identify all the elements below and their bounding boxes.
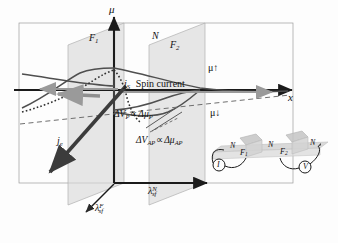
label-delta-v-ap: ΔVAP∝ΔμAP (136, 136, 183, 146)
axis-label-x: x (288, 92, 293, 103)
region-label-f2: F2 (170, 40, 180, 51)
inset-voltmeter-label: V (303, 163, 308, 171)
region-label-f1: F1 (89, 33, 99, 44)
label-mu-up: μ↑ (208, 63, 218, 73)
label-delta-v-p: ΔVP∝ΔμP (114, 110, 153, 120)
inset-current-source-label: I (217, 161, 220, 169)
inset-label-n-left: N (230, 142, 235, 150)
inset-label-f1: F1 (240, 149, 248, 158)
inset-label-n-right: N (310, 139, 315, 147)
axis-label-mu: μ (109, 4, 115, 15)
label-mu-down: μ↓ (210, 108, 220, 118)
label-lambda-sf-n: λNsf (148, 186, 156, 198)
arrow-spin-f1 (58, 94, 100, 96)
region-label-n: N (152, 31, 159, 41)
inset-label-n-middle: N (268, 141, 273, 149)
inset-label-f2: F2 (280, 148, 288, 157)
figure-svg (0, 0, 338, 243)
label-charge-current: je (57, 136, 63, 147)
label-lambda-sf-f: λFsf (95, 203, 103, 215)
label-spin-current: jS Spin current (124, 79, 185, 90)
figure-canvas: μ x F1 N F2 μ↑ μ↓ jS Spin current je ΔVP… (0, 0, 338, 243)
spin-current-text: Spin current (136, 78, 185, 89)
